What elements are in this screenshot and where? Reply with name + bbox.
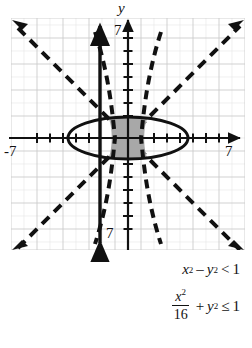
graph-svg bbox=[0, 0, 252, 262]
eq2-fraction-numerator: x2 bbox=[172, 289, 189, 306]
equations-block: x2 – y2 < 1 x2 16 + y2 ≤ 1 bbox=[0, 258, 252, 323]
y-axis-tick-label-top: 7 bbox=[114, 23, 122, 38]
eq2-fraction-denominator: 16 bbox=[171, 306, 191, 323]
eq1-rhs: 1 bbox=[233, 262, 241, 277]
y-axis-tick-label-bottom: 7 bbox=[106, 226, 114, 241]
inequality-1: x2 – y2 < 1 bbox=[0, 262, 252, 277]
eq2-rhs: 1 bbox=[233, 299, 241, 314]
figure-root: y 7 7 -7 7 x2 – y2 < 1 x2 16 + y2 ≤ 1 bbox=[0, 0, 252, 348]
eq1-y: y bbox=[207, 262, 214, 277]
eq2-fraction: x2 16 bbox=[171, 289, 191, 323]
eq2-relation: ≤ bbox=[221, 299, 229, 314]
y-axis-label: y bbox=[118, 1, 125, 16]
eq1-relation: < bbox=[221, 262, 229, 277]
eq1-minus: – bbox=[196, 262, 204, 277]
x-axis-tick-label-right: 7 bbox=[225, 144, 233, 159]
graph-plot-area: y 7 7 -7 7 bbox=[0, 0, 252, 262]
x-axis-tick-label-left: -7 bbox=[4, 144, 17, 159]
inequality-2: x2 16 + y2 ≤ 1 bbox=[0, 289, 252, 323]
eq2-y: y bbox=[207, 299, 214, 314]
eq2-plus: + bbox=[196, 299, 204, 314]
eq1-x: x bbox=[182, 262, 189, 277]
eq2-num-exponent: 2 bbox=[181, 287, 186, 297]
